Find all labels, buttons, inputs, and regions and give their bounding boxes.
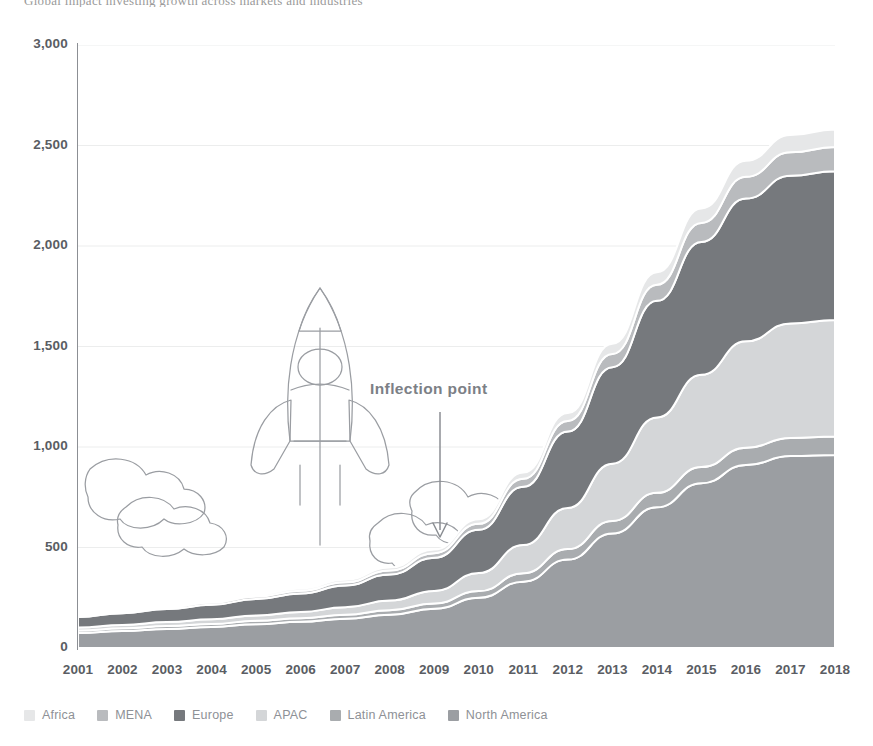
cropped-header-text: Global impact investing growth across ma…	[24, 0, 784, 7]
inflection-point-arrow	[433, 412, 447, 537]
rocket-nose	[299, 288, 341, 331]
x-tick-label: 2012	[546, 662, 590, 677]
x-tick-label: 2011	[501, 662, 545, 677]
y-tick-label: 2,000	[12, 237, 68, 252]
legend-swatch-africa	[24, 710, 35, 721]
y-axis-labels: 05001,0001,5002,0002,5003,000	[8, 0, 68, 700]
legend-item[interactable]: Latin America	[330, 708, 426, 722]
x-axis-labels: 2001200220032004200520062007200820092010…	[0, 662, 873, 684]
legend-item[interactable]: Africa	[24, 708, 75, 722]
x-tick-label: 2001	[56, 662, 100, 677]
legend-swatch-latin-america	[330, 710, 341, 721]
rocket-fin-left	[251, 400, 291, 474]
inflection-point-label: Inflection point	[370, 380, 487, 398]
chart-svg	[78, 45, 835, 648]
x-tick-label: 2015	[679, 662, 723, 677]
x-tick-label: 2004	[190, 662, 234, 677]
legend-swatch-apac	[256, 710, 267, 721]
legend-item[interactable]: MENA	[97, 708, 152, 722]
y-tick-label: 2,500	[12, 137, 68, 152]
y-tick-label: 0	[12, 639, 68, 654]
x-tick-label: 2010	[457, 662, 501, 677]
legend-item[interactable]: APAC	[256, 708, 308, 722]
legend-item-label: Europe	[192, 708, 234, 722]
legend-swatch-mena	[97, 710, 108, 721]
legend-item-label: North America	[466, 708, 548, 722]
x-tick-label: 2009	[412, 662, 456, 677]
legend-item-label: APAC	[274, 708, 308, 722]
x-tick-label: 2002	[101, 662, 145, 677]
legend-item-label: Africa	[42, 708, 75, 722]
y-tick-label: 3,000	[12, 36, 68, 51]
x-tick-label: 2007	[323, 662, 367, 677]
y-tick-label: 1,500	[12, 338, 68, 353]
x-tick-label: 2005	[234, 662, 278, 677]
exhaust-lines	[300, 328, 340, 545]
stacked-area-chart	[78, 45, 835, 648]
legend-item[interactable]: Europe	[174, 708, 234, 722]
x-tick-label: 2014	[635, 662, 679, 677]
inflection-point-annotation: Inflection point	[370, 380, 487, 398]
y-tick-label: 1,000	[12, 438, 68, 453]
rocket-launch-illustration	[85, 288, 522, 572]
legend-item-label: MENA	[115, 708, 152, 722]
y-tick-label: 500	[12, 539, 68, 554]
x-tick-label: 2017	[768, 662, 812, 677]
legend-item[interactable]: North America	[448, 708, 548, 722]
legend-swatch-north-america	[448, 710, 459, 721]
chart-legend: AfricaMENAEuropeAPACLatin AmericaNorth A…	[24, 708, 548, 722]
rocket-fin-right	[349, 400, 389, 474]
legend-item-label: Latin America	[348, 708, 426, 722]
legend-swatch-europe	[174, 710, 185, 721]
x-tick-label: 2013	[590, 662, 634, 677]
cloud-left	[85, 459, 226, 556]
x-tick-label: 2006	[279, 662, 323, 677]
x-tick-label: 2003	[145, 662, 189, 677]
x-tick-label: 2016	[724, 662, 768, 677]
x-tick-label: 2008	[368, 662, 412, 677]
x-tick-label: 2018	[813, 662, 857, 677]
